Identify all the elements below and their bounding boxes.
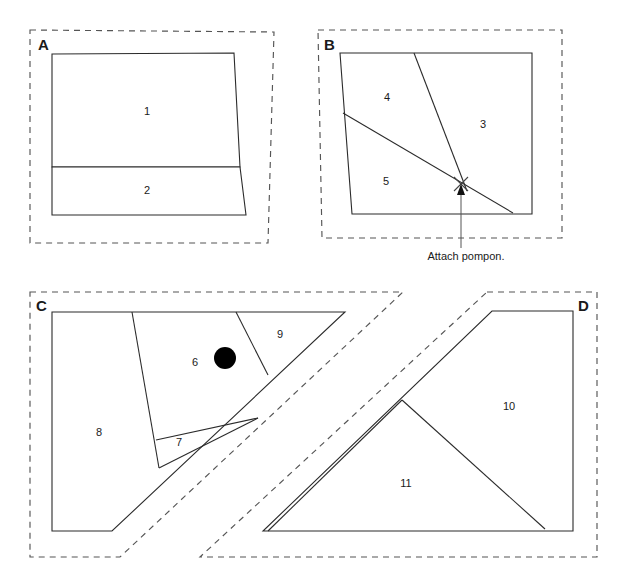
piece-number-8: 8 [96,426,102,438]
pattern-sheet: A 1 2 B 3 4 5 Attach pom [0,0,627,579]
piece-number-1: 1 [144,105,150,117]
piece-number-5: 5 [383,175,389,187]
panel-a: A 1 2 [30,30,274,243]
piece-number-11: 11 [400,477,411,489]
piece-number-2: 2 [144,184,150,196]
panel-b-letter: B [324,36,335,53]
piece-number-4: 4 [384,91,390,103]
panel-c-letter: C [36,297,47,314]
attach-pompon-label: Attach pompon. [427,250,504,262]
panel-b: B 3 4 5 [318,30,562,238]
piece-number-3: 3 [480,118,486,130]
pompon-dot [214,347,236,369]
piece-number-9: 9 [277,328,283,340]
piece-number-6: 6 [192,356,198,368]
pattern-diagram: A 1 2 B 3 4 5 Attach pom [0,0,627,579]
piece-number-7: 7 [176,436,182,448]
panel-a-letter: A [38,36,49,53]
panel-d-letter: D [578,297,589,314]
panel-b-piece-outline [340,53,532,214]
piece-number-10: 10 [503,400,515,412]
